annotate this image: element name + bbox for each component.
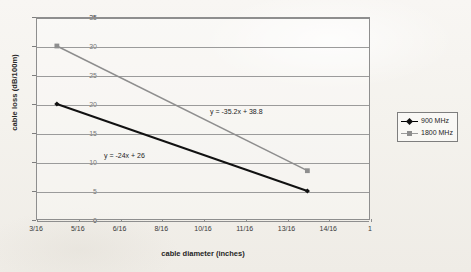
series-line (57, 104, 308, 191)
x-tick-label: 5/16 (71, 225, 85, 232)
x-tick-mark (371, 219, 372, 222)
annotation-equation-900mhz: y = -24x + 26 (104, 152, 145, 160)
annotation-equation-1800mhz: y = -35.2x + 38.8 (210, 108, 263, 116)
y-axis-title: cable loss (dB/100m) (10, 23, 19, 163)
x-tick-label: 8/16 (154, 225, 168, 232)
x-tick-label: 3/16 (29, 225, 43, 232)
x-tick-label: 1 (368, 225, 372, 232)
gridline (37, 221, 369, 222)
data-point-marker-diamond (305, 188, 310, 193)
x-tick-label: 13/16 (278, 225, 296, 232)
line-chart: cable loss (dB/100m) 05101520253035 3/16… (0, 0, 471, 272)
series-line (57, 46, 308, 171)
legend-item-900mhz: 900 MHz (401, 116, 453, 126)
series-1800-mhz (54, 44, 309, 174)
data-point-marker-square (305, 168, 310, 173)
legend-label-1800mhz: 1800 MHz (421, 129, 453, 137)
legend: 900 MHz 1800 MHz (397, 112, 458, 142)
x-tick-label: 6/16 (113, 225, 127, 232)
x-axis-title: cable diameter (inches) (0, 249, 406, 258)
series-900-mhz (54, 101, 310, 193)
legend-marker-square-icon (401, 129, 418, 137)
x-tick-label: 10/16 (194, 225, 212, 232)
data-point-marker-square (54, 44, 59, 49)
legend-item-1800mhz: 1800 MHz (401, 128, 453, 138)
data-series-layer (36, 17, 370, 220)
data-point-marker-diamond (54, 101, 59, 106)
y-tick-mark (32, 220, 36, 221)
x-tick-label: 11/16 (236, 225, 253, 232)
legend-label-900mhz: 900 MHz (421, 117, 449, 125)
x-tick-label: 14/16 (319, 225, 337, 232)
legend-marker-diamond-icon (401, 117, 418, 125)
